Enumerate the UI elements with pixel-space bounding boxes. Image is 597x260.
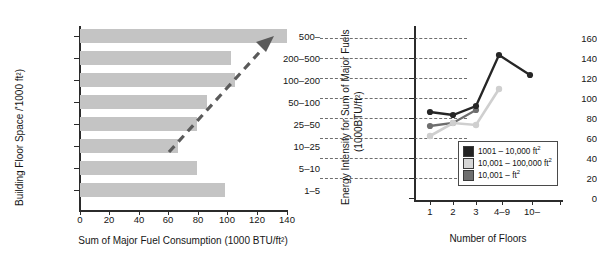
left-y-tick-mark — [74, 36, 79, 37]
left-x-tick-label: 20 — [104, 214, 115, 225]
legend-swatch-black — [463, 146, 474, 157]
left-y-tick-mark — [74, 80, 79, 81]
left-y-tick-mark — [74, 58, 79, 59]
left-x-tick-label: 140 — [279, 214, 295, 225]
legend-item-1001-10000[interactable]: 1001 – 10,000 ft2 — [463, 146, 552, 157]
left-x-tick-label: 0 — [77, 214, 82, 225]
right-x-tick-label: 1 — [427, 206, 432, 217]
left-x-tick-label: 100 — [219, 214, 235, 225]
left-y-tick-mark — [74, 146, 79, 147]
data-point-light-gray — [496, 86, 502, 92]
series-black-line — [430, 55, 530, 115]
data-point-black — [527, 72, 533, 78]
left-y-tick-mark — [74, 102, 79, 103]
left-bar-chart: Building Floor Space /'1000 ft²) 500– 20… — [0, 0, 320, 260]
left-y-tick-mark — [74, 168, 79, 169]
left-x-tick-label: 40 — [134, 214, 145, 225]
left-y-axis-title: Building Floor Space /'1000 ft²) — [14, 69, 25, 206]
left-x-tick-label: 120 — [249, 214, 265, 225]
data-point-light-gray — [450, 120, 456, 126]
data-point-black — [450, 112, 456, 118]
two-panel-figure: Building Floor Space /'1000 ft²) 500– 20… — [0, 0, 597, 260]
legend-swatch-light-gray — [463, 158, 474, 169]
left-x-tick-label: 60 — [163, 214, 174, 225]
right-x-tick-mark — [502, 200, 503, 205]
legend-item-10001-plus[interactable]: 10,001 – ft2 — [463, 170, 552, 181]
right-x-tick-mark — [453, 200, 454, 205]
right-x-tick-mark — [430, 200, 431, 205]
line-series-group — [320, 0, 597, 260]
data-point-medium-gray — [427, 123, 433, 129]
legend-sup-2: 2 — [549, 157, 552, 163]
chart-legend[interactable]: 1001 – 10,000 ft2 10,001 – 100,000 ft2 1… — [458, 141, 558, 186]
right-x-axis-title: Number of Floors — [449, 233, 526, 244]
right-x-tick-mark — [532, 200, 533, 205]
right-x-tick-label: 2 — [450, 206, 455, 217]
data-point-black — [496, 52, 502, 58]
right-x-tick-label: 10– — [524, 206, 540, 217]
legend-sup-3: 2 — [517, 169, 520, 175]
data-point-black — [473, 103, 479, 109]
data-point-black — [427, 109, 433, 115]
legend-label-3: 10,001 – ft — [478, 171, 517, 180]
left-y-tick-mark — [74, 124, 79, 125]
right-x-tick-mark — [476, 200, 477, 205]
legend-item-10001-100000[interactable]: 10,001 – 100,000 ft2 — [463, 158, 552, 169]
legend-sup-1: 2 — [537, 145, 540, 151]
data-point-light-gray — [473, 122, 479, 128]
legend-swatch-medium-gray — [463, 170, 474, 181]
legend-label-2: 10,001 – 100,000 ft — [478, 159, 549, 168]
right-x-tick-mark — [560, 200, 561, 205]
left-y-tick-mark — [74, 190, 79, 191]
data-point-light-gray — [427, 133, 433, 139]
trend-arrow-icon — [80, 20, 310, 220]
right-line-chart: Energy Intensity for Sum of Major Fuels … — [320, 0, 597, 260]
right-x-tick-label: 3 — [473, 206, 478, 217]
right-x-tick-label: 4–9 — [494, 206, 510, 217]
left-x-tick-label: 80 — [193, 214, 204, 225]
legend-label-1: 1001 – 10,000 ft — [478, 147, 537, 156]
left-x-axis-title: Sum of Major Fuel Consumption (1000 BTU/… — [78, 235, 288, 246]
